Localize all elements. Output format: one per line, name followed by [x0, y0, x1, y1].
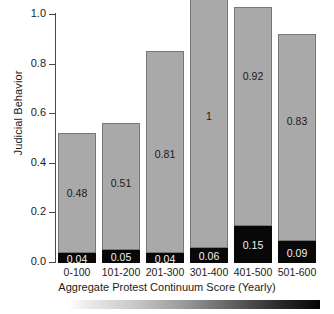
- y-tick-label-0: 0.0: [0, 255, 46, 267]
- bar-2-upper-label: 0.81: [147, 148, 183, 160]
- bar-5-upper-segment: 0.83: [278, 34, 316, 241]
- bar-2[interactable]: 0.04 0.81: [146, 51, 184, 263]
- bar-2-lower-label: 0.04: [147, 253, 183, 265]
- bar-5-lower-segment: 0.09: [278, 241, 316, 263]
- x-axis-title: Aggregate Protest Continuum Score (Yearl…: [0, 281, 334, 293]
- bar-4-lower-label: 0.15: [235, 239, 271, 251]
- protest-intensity-gradient-bar: [68, 300, 320, 309]
- bar-0-lower-label: 0.04: [59, 253, 95, 265]
- y-tick-mark-5: [49, 14, 55, 15]
- bar-5[interactable]: 0.09 0.83: [278, 34, 316, 263]
- bar-3[interactable]: 0.06 1: [190, 0, 228, 263]
- bar-4-lower-segment: 0.15: [234, 226, 272, 263]
- bar-5-upper-label: 0.83: [279, 115, 315, 127]
- bar-3-upper-label: 1: [191, 110, 227, 122]
- bar-2-upper-segment: 0.81: [146, 51, 184, 253]
- bar-4-upper-segment: 0.92: [234, 7, 272, 226]
- bar-2-lower-segment: 0.04: [146, 253, 184, 263]
- bar-0-lower-segment: 0.04: [58, 253, 96, 263]
- bar-0[interactable]: 0.04 0.48: [58, 133, 96, 263]
- bar-1[interactable]: 0.05 0.51: [102, 123, 140, 263]
- bar-1-upper-label: 0.51: [103, 177, 139, 189]
- bar-4-upper-label: 0.92: [235, 70, 271, 82]
- y-tick-label-5: 1.0: [0, 7, 46, 19]
- bar-3-upper-segment: 1: [190, 0, 228, 248]
- bar-3-lower-segment: 0.06: [190, 248, 228, 263]
- y-tick-label-1: 0.2: [0, 205, 46, 217]
- bar-1-lower-label: 0.05: [103, 251, 139, 263]
- bar-0-upper-segment: 0.48: [58, 133, 96, 253]
- y-tick-mark-0: [49, 262, 55, 263]
- y-tick-mark-1: [49, 212, 55, 213]
- bar-5-lower-label: 0.09: [279, 247, 315, 259]
- y-tick-label-2: 0.4: [0, 156, 46, 168]
- bar-4[interactable]: 0.15 0.92: [234, 7, 272, 263]
- bar-0-upper-label: 0.48: [59, 187, 95, 199]
- stacked-bar-chart: Judicial Behavior 0.0 0.2 0.4 0.6 0.8 1.…: [0, 0, 334, 314]
- bar-1-upper-segment: 0.51: [102, 123, 140, 250]
- bar-3-lower-label: 0.06: [191, 250, 227, 262]
- bar-1-lower-segment: 0.05: [102, 250, 140, 263]
- plot-area: 0.04 0.48 0.05 0.51 0.04 0.81: [56, 8, 326, 263]
- x-tick-label-5: 501-600: [262, 266, 332, 278]
- y-tick-label-4: 0.8: [0, 57, 46, 69]
- y-tick-mark-2: [49, 163, 55, 164]
- y-tick-mark-4: [49, 64, 55, 65]
- y-tick-mark-3: [49, 113, 55, 114]
- y-tick-label-3: 0.6: [0, 106, 46, 118]
